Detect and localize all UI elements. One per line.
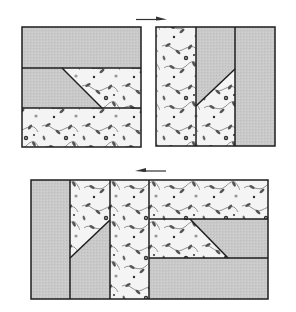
quilt-diagram (0, 0, 296, 312)
arrow-right-icon (136, 17, 167, 21)
block-combined (31, 180, 268, 299)
block-step-1 (22, 27, 141, 147)
block-step-2 (156, 27, 275, 146)
arrow-left-icon (135, 168, 166, 172)
